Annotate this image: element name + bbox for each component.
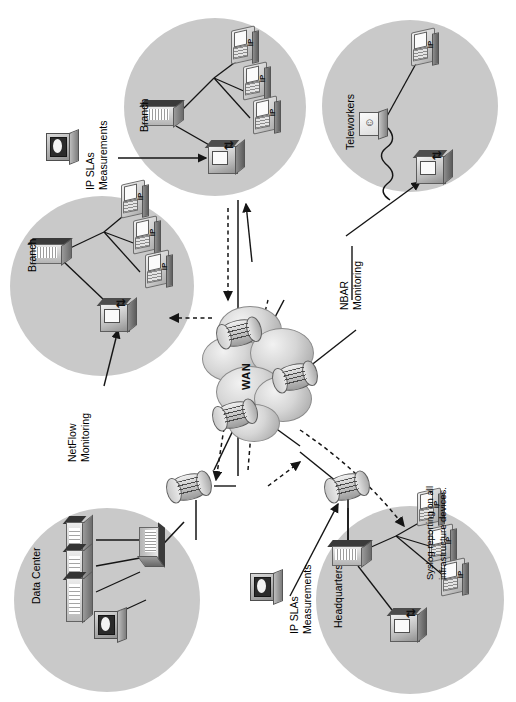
site-blob-headquarters [316,506,504,694]
router-icon-edge-headquarters[interactable] [321,465,374,509]
site-label-data-center: Data Center [30,547,42,604]
server-rack-icon-3[interactable] [66,572,92,624]
annotation-ipsla-top-line1: IP SLAs [84,121,97,190]
router-icon-edge-datacenter[interactable] [163,465,216,509]
annotation-syslog-line2: infrastructure devices. [437,486,450,580]
multilayer-switch-icon-headquarters[interactable]: ⇄ [388,606,428,646]
wan-label: WAN [240,363,252,390]
annotation-ipsla-bottom: IP SLAs Measurements [288,565,313,634]
annotation-syslog: Syslog reporting on all infrastructure d… [424,486,449,580]
annotation-nbar-line1: NBAR [338,261,351,310]
ip-phone-icon-branch-top-2[interactable]: IP [240,62,270,100]
ip-sla-probe-icon-bottom[interactable] [248,570,282,604]
ip-phone-icon-branch-left-2[interactable]: IP [130,216,160,254]
annotation-nbar: NBAR Monitoring [338,261,363,310]
storage-icon-data-center[interactable] [92,608,126,642]
multilayer-switch-icon-branch-left[interactable]: ⇄ [98,296,138,336]
annotation-ipsla-bottom-line1: IP SLAs [288,565,301,634]
annotation-ipsla-bottom-line2: Measurements [301,565,314,634]
ethernet-switch-icon-headquarters[interactable] [330,540,374,566]
multilayer-switch-icon-teleworkers[interactable]: ⇄ [414,148,454,188]
ip-sla-probe-icon-top[interactable] [44,130,78,164]
site-label-branch-top: Branch [138,99,150,132]
site-label-teleworkers: Teleworkers [344,94,356,150]
multilayer-switch-icon-branch-top[interactable]: ⇄ [206,138,246,178]
ip-phone-icon-branch-left-3[interactable]: IP [142,250,172,288]
ip-phone-icon-teleworker[interactable]: IP [408,28,438,66]
annotation-netflow-line1: NetFlow [66,413,79,462]
annotation-nbar-line2: Monitoring [351,261,364,310]
ip-phone-icon-branch-left-1[interactable]: IP [118,180,148,218]
ip-phone-icon-branch-top-1[interactable]: IP [228,26,258,64]
annotation-ipsla-top: IP SLAs Measurements [84,121,109,190]
ethernet-switch-icon-data-center[interactable] [139,525,165,569]
ip-phone-icon-branch-top-3[interactable]: IP [250,96,280,134]
annotation-ipsla-top-line2: Measurements [97,121,110,190]
annotation-netflow: NetFlow Monitoring [66,413,91,462]
teleworker-host-icon[interactable]: ☺ [358,110,388,140]
site-label-branch-left: Branch [26,239,38,272]
site-label-headquarters: Headquarters [332,564,344,628]
annotation-netflow-line2: Monitoring [79,413,92,462]
annotation-syslog-line1: Syslog reporting on all [424,486,437,580]
page-header-fragment [0,0,516,14]
diagram-canvas: WAN Branch IP IP IP ⇄ Teleworkers ☺ IP ⇄ [0,0,516,702]
